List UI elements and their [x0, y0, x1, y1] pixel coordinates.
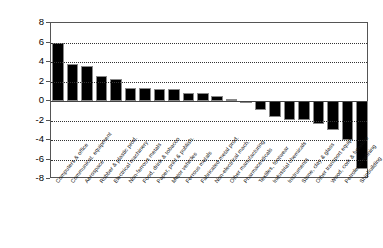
y-axis-tick-label: -8: [0, 173, 44, 183]
bar: [255, 101, 267, 110]
y-axis: 86420-2-4-6-8: [0, 0, 48, 248]
gridline: [51, 82, 367, 83]
y-axis-tick-label: -6: [0, 154, 44, 164]
bar: [81, 66, 93, 101]
zero-line: [51, 101, 367, 102]
y-axis-tick-label: -4: [0, 134, 44, 144]
plot-area: [50, 22, 368, 178]
y-axis-tick-label: 8: [0, 17, 44, 27]
gridline: [51, 140, 367, 141]
y-axis-tick-label: 6: [0, 37, 44, 47]
bars-layer: [51, 23, 367, 177]
bar: [168, 89, 180, 101]
bar: [298, 101, 310, 120]
gridline: [51, 121, 367, 122]
gridline: [51, 160, 367, 161]
bar: [197, 93, 209, 101]
bar: [269, 101, 281, 117]
y-axis-tick-label: 4: [0, 56, 44, 66]
gridline: [51, 62, 367, 63]
y-axis-tick-label: 2: [0, 76, 44, 86]
bar: [327, 101, 339, 130]
y-axis-tick-label: 0: [0, 95, 44, 105]
y-axis-tick-mark: [46, 178, 50, 179]
bar: [154, 89, 166, 101]
y-axis-tick-label: -2: [0, 115, 44, 125]
bar: [96, 76, 108, 101]
bar: [284, 101, 296, 120]
gridline: [51, 43, 367, 44]
bar: [125, 88, 137, 101]
bar: [139, 88, 151, 101]
bar: [52, 43, 64, 102]
bar: [183, 93, 195, 101]
